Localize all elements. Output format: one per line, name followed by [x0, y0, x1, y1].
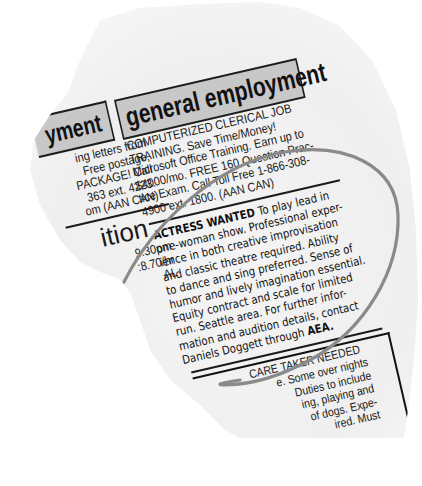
newspaper-clipping-photo: yment ing letters from Free postage, PAC… [0, 0, 422, 486]
torn-newspaper-paper: yment ing letters from Free postage, PAC… [0, 0, 422, 486]
actress-wanted-ad: ACTRESS WANTED To play lead in one-woman… [152, 184, 379, 368]
